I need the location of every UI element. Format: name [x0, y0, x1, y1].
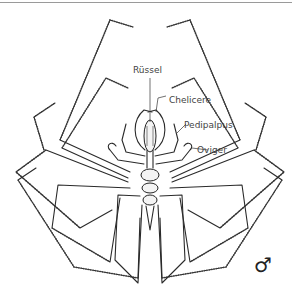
- sea-spider-drawing: [0, 0, 300, 294]
- label-pedipalpus: Pedipalpus: [184, 121, 233, 130]
- label-leaders: [150, 78, 208, 150]
- label-oviger: Oviger: [197, 146, 227, 155]
- left-legs: [16, 20, 142, 283]
- sea-spider-illustration: Rüssel Chelicere Pedipalpus Oviger ♂: [0, 0, 300, 294]
- label-ruessel: Rüssel: [133, 66, 162, 75]
- label-chelicere: Chelicere: [169, 96, 211, 105]
- trunk: [141, 150, 159, 230]
- proboscis: [144, 120, 156, 152]
- male-symbol-icon: ♂: [254, 255, 272, 275]
